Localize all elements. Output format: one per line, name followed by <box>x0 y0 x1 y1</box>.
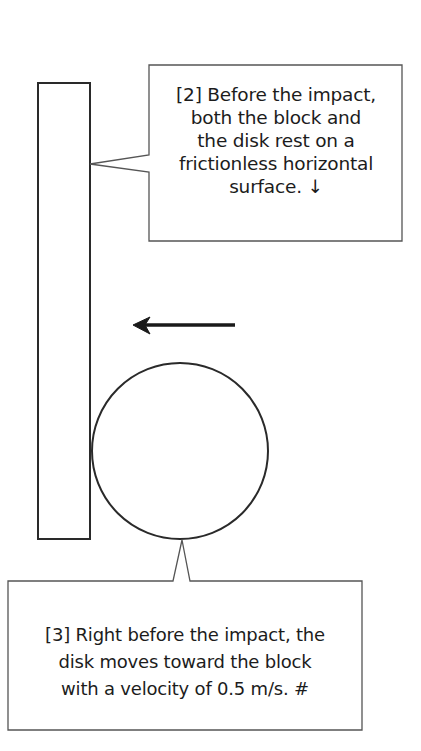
disk <box>92 363 268 539</box>
callout-2-line: [2] Before the impact, <box>150 83 402 106</box>
callout-3-text: [3] Right before the impact, the disk mo… <box>8 621 362 702</box>
callout-2-line: both the block and <box>150 106 402 129</box>
callout-2-line: frictionless horizontal <box>150 152 402 175</box>
callout-2-line: the disk rest on a <box>150 129 402 152</box>
callout-2-text: [2] Before the impact, both the block an… <box>150 83 402 198</box>
block <box>38 83 90 539</box>
callout-2-line: surface. ↓ <box>150 175 402 198</box>
callout-3-line: with a velocity of 0.5 m/s. # <box>8 675 362 702</box>
callout-3-line: disk moves toward the block <box>8 648 362 675</box>
velocity-arrow-icon <box>133 317 235 334</box>
callout-3-line: [3] Right before the impact, the <box>8 621 362 648</box>
